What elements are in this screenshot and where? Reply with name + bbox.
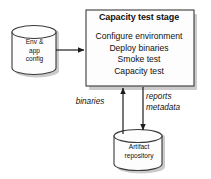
edge-label-reports-metadata: reports metadata bbox=[146, 92, 206, 113]
edge-label-binaries: binaries bbox=[63, 97, 117, 106]
diagram-canvas: Capacity test stage Configure environmen… bbox=[0, 0, 211, 179]
stage-steps-list: Configure environment Deploy binaries Sm… bbox=[83, 31, 195, 77]
stage-title: Capacity test stage bbox=[86, 12, 192, 22]
diagram-shapes bbox=[0, 0, 211, 179]
env-app-config-label: Env & app config bbox=[13, 38, 56, 64]
artifact-repository-label: Artifact repository bbox=[112, 143, 166, 160]
